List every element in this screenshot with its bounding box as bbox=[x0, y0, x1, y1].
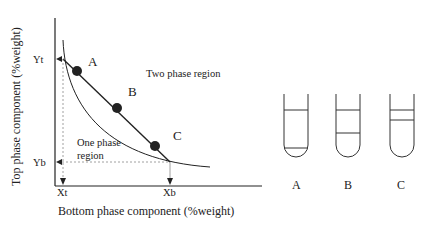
tube-b bbox=[336, 94, 360, 157]
point-a bbox=[72, 66, 82, 76]
tube-c bbox=[390, 94, 414, 157]
two-phase-label: Two phase region bbox=[146, 68, 221, 79]
tube-b-label: B bbox=[344, 178, 352, 192]
x-axis-title: Bottom phase component (%weight) bbox=[58, 204, 234, 218]
xt-label: Xt bbox=[57, 187, 68, 198]
xb-label: Xb bbox=[163, 187, 176, 198]
point-b-label: B bbox=[128, 84, 137, 99]
xb-arrow-icon bbox=[167, 178, 173, 185]
one-phase-label-1: One phase bbox=[77, 137, 121, 148]
point-c bbox=[150, 141, 160, 151]
point-a-label: A bbox=[88, 54, 98, 69]
one-phase-label-2: region bbox=[77, 150, 105, 161]
yt-label: Yt bbox=[33, 54, 44, 65]
y-axis-title: Top phase component (%weight) bbox=[9, 27, 23, 186]
yb-arrow-icon bbox=[56, 159, 62, 165]
xt-arrow-icon bbox=[60, 178, 66, 185]
point-b bbox=[112, 103, 122, 113]
phase-diagram: A B C Two phase region One phase region … bbox=[0, 0, 427, 227]
yb-label: Yb bbox=[33, 157, 46, 168]
tube-a-label: A bbox=[292, 178, 301, 192]
tube-a bbox=[284, 94, 308, 157]
point-c-label: C bbox=[173, 128, 182, 143]
tube-c-label: C bbox=[397, 178, 405, 192]
yt-arrow-icon bbox=[56, 56, 62, 62]
